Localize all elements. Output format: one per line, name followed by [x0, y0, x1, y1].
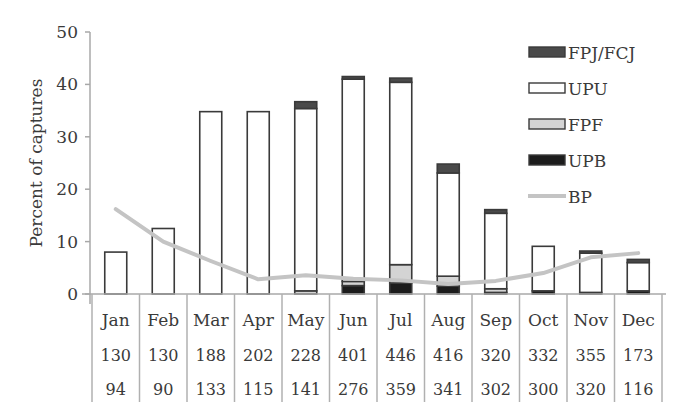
y-tick-label: 30	[56, 127, 78, 147]
table-cell-row1: 202	[243, 346, 274, 365]
segment-upu	[437, 173, 459, 276]
table-cell-row1: 355	[575, 346, 606, 365]
bp-line-path	[116, 209, 639, 284]
month-label: Jul	[387, 310, 412, 330]
month-label: Sep	[479, 310, 512, 330]
bar-jan	[105, 252, 127, 294]
segment-upu	[485, 213, 507, 288]
segment-upb	[437, 286, 459, 294]
segment-upu	[390, 82, 412, 264]
stacked-bar-chart: 01020304050 Percent of captures JanFebMa…	[0, 0, 677, 414]
table-cell-row2: 320	[575, 380, 606, 399]
bar-aug	[437, 164, 459, 294]
month-label: Feb	[147, 310, 179, 330]
segment-upu	[105, 252, 127, 294]
segment-fpj-fcj	[295, 102, 317, 109]
table-cell-row2: 116	[623, 380, 654, 399]
y-tick-label: 40	[56, 74, 78, 94]
legend-label: BP	[568, 187, 592, 207]
bar-jun	[342, 77, 364, 294]
legend-label: FPJ/FCJ	[568, 43, 636, 63]
table-cell-row1: 332	[528, 346, 559, 365]
month-label: Aug	[430, 310, 465, 330]
bar-may	[295, 102, 317, 294]
y-axis-label: Percent of captures	[26, 79, 46, 248]
month-label: Apr	[242, 310, 275, 330]
table-cell-row1: 188	[195, 346, 226, 365]
legend-item-upb: UPB	[529, 151, 606, 171]
bar-apr	[247, 112, 269, 294]
segment-upb	[390, 283, 412, 294]
bar-jul	[390, 78, 412, 294]
bar-dec	[627, 259, 649, 294]
bars	[105, 77, 650, 294]
month-label: Dec	[622, 310, 655, 330]
segment-fpj-fcj	[485, 210, 507, 214]
legend-swatch	[529, 119, 565, 129]
table-cell-row2: 341	[433, 380, 464, 399]
table-cell-row2: 300	[528, 380, 559, 399]
segment-fpj-fcj	[627, 259, 649, 262]
segment-upu	[200, 112, 222, 294]
month-label: Jun	[337, 310, 368, 330]
month-label: Mar	[193, 310, 230, 330]
segment-fpj-fcj	[342, 77, 364, 80]
table-cell-row2: 359	[385, 380, 416, 399]
segment-upu	[627, 263, 649, 291]
table-cell-row2: 133	[195, 380, 226, 399]
bar-mar	[200, 112, 222, 294]
y-tick-label: 0	[67, 284, 78, 304]
table-cell-row2: 141	[290, 380, 321, 399]
table-cell-row1: 401	[338, 346, 369, 365]
legend-swatch	[529, 83, 565, 93]
segment-upu	[295, 109, 317, 291]
month-label: May	[287, 310, 325, 330]
segment-upb	[342, 286, 364, 294]
table-cell-row1: 130	[148, 346, 179, 365]
table-cell-row1: 446	[385, 346, 416, 365]
segment-upu	[247, 112, 269, 294]
table-cell-row2: 302	[480, 380, 511, 399]
segment-upu	[342, 79, 364, 281]
table-cell-row1: 228	[290, 346, 321, 365]
y-axis: 01020304050	[56, 22, 90, 304]
legend-label: UPB	[568, 151, 606, 171]
segment-fpj-fcj	[437, 164, 459, 173]
table-cell-row2: 115	[243, 380, 274, 399]
segment-fpj-fcj	[580, 251, 602, 253]
month-label: Jan	[100, 310, 130, 330]
table-cell-row1: 173	[623, 346, 654, 365]
legend-swatch	[529, 47, 565, 57]
legend-item-fpf: FPF	[529, 115, 603, 135]
table-cell-row2: 276	[338, 380, 369, 399]
legend-item-upu: UPU	[529, 79, 608, 99]
legend-item-fpj-fcj: FPJ/FCJ	[529, 43, 636, 63]
y-tick-label: 10	[56, 232, 78, 252]
y-tick-label: 20	[56, 179, 78, 199]
table-cell-row1: 130	[100, 346, 131, 365]
table-cell-row2: 90	[153, 380, 173, 399]
month-table: JanFebMarAprMayJunJulAugSepOctNovDec1301…	[82, 294, 666, 402]
month-label: Oct	[528, 310, 558, 330]
bp-line	[116, 209, 639, 284]
month-label: Nov	[573, 310, 608, 330]
legend-label: UPU	[568, 79, 608, 99]
y-tick-label: 50	[56, 22, 78, 42]
legend-swatch	[529, 155, 565, 165]
legend: FPJ/FCJUPUFPFUPBBP	[528, 43, 636, 207]
table-cell-row2: 94	[106, 380, 126, 399]
table-cell-row1: 416	[433, 346, 464, 365]
segment-fpj-fcj	[390, 78, 412, 82]
legend-label: FPF	[568, 115, 603, 135]
table-cell-row1: 320	[480, 346, 511, 365]
legend-item-bp: BP	[528, 187, 592, 207]
